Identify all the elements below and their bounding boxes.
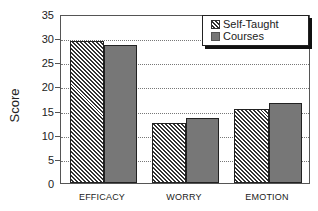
y-tick-10: 10 (28, 130, 54, 142)
y-tick-35: 35 (28, 9, 54, 21)
y-tick-0: 0 (28, 178, 54, 190)
y-tick-15: 15 (28, 106, 54, 118)
bar-efficacy-courses (104, 45, 137, 183)
legend: Self-Taught Courses (202, 15, 309, 46)
legend-swatch-courses (211, 32, 220, 41)
y-tick-25: 25 (28, 57, 54, 69)
bar-efficacy-self-taught (70, 41, 104, 183)
x-label-efficacy: EFFICACY (62, 192, 142, 202)
x-label-worry: WORRY (144, 192, 224, 202)
legend-swatch-self-taught (211, 20, 220, 29)
legend-label-self-taught: Self-Taught (223, 18, 279, 30)
bar-worry-courses (186, 118, 219, 183)
y-tick-30: 30 (28, 33, 54, 45)
bar-chart: Score 0 5 10 15 20 25 30 35 EFFICACY WOR… (0, 0, 318, 211)
y-tick-5: 5 (28, 154, 54, 166)
bar-emotion-self-taught (234, 109, 269, 183)
y-axis-label: Score (7, 86, 22, 126)
y-tick-20: 20 (28, 81, 54, 93)
bar-emotion-courses (269, 103, 302, 183)
legend-label-courses: Courses (223, 30, 264, 42)
bar-worry-self-taught (152, 123, 186, 183)
x-label-emotion: EMOTION (227, 192, 307, 202)
